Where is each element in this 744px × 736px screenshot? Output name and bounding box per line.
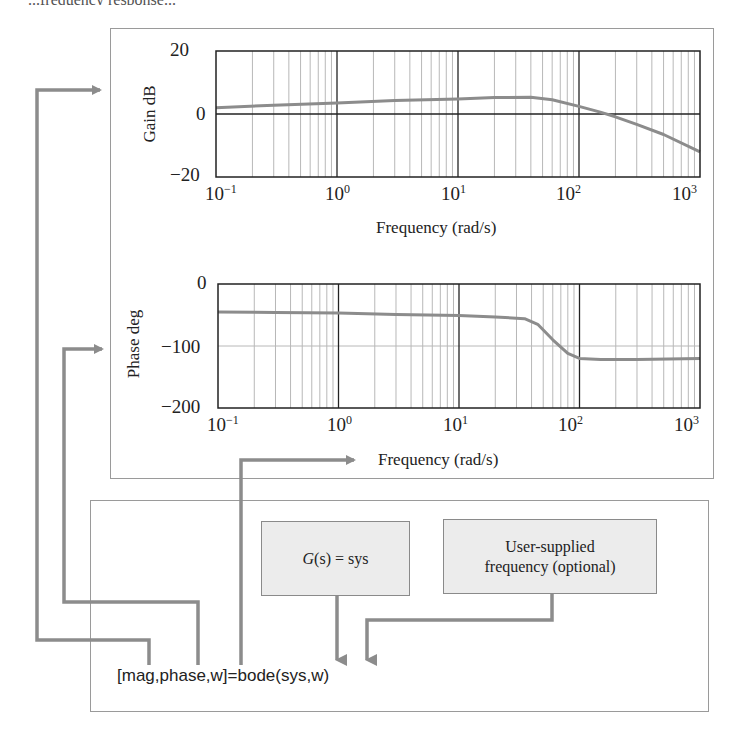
phase-ytick-0: 0: [197, 272, 207, 294]
phase-xtick-0: 10−1: [207, 414, 239, 436]
gain-xtick-3: 102: [556, 183, 581, 205]
phase-plot: [218, 284, 700, 408]
gain-xtick-4: 103: [672, 183, 697, 205]
gain-plot: [216, 51, 700, 177]
freq-arrow: [367, 594, 552, 660]
phase-xtick-2: 101: [443, 414, 468, 436]
system-label-g: G: [303, 550, 315, 567]
gain-xtick-2: 101: [441, 183, 466, 205]
phase-xtick-3: 102: [558, 414, 583, 436]
gain-ylabel: Gain dB: [140, 74, 160, 154]
phase-xlabel: Frequency (rad/s): [378, 450, 498, 470]
phase-xtick-1: 100: [327, 414, 352, 436]
gain-ytick-20: 20: [170, 39, 189, 61]
system-box: G(s) = sys: [261, 521, 410, 596]
phase-ytick-neg200: −200: [161, 396, 200, 418]
phase-ylabel: Phase deg: [124, 299, 144, 389]
frequency-box: User-supplied frequency (optional): [443, 519, 657, 594]
system-label-s: (s): [314, 550, 331, 567]
phase-xtick-4: 103: [674, 414, 699, 436]
gain-xtick-1: 100: [325, 183, 350, 205]
frequency-box-line2: frequency (optional): [484, 557, 615, 577]
gain-xlabel: Frequency (rad/s): [376, 218, 496, 238]
gain-xtick-0: 10−1: [205, 183, 237, 205]
phase-ytick-neg100: −100: [161, 336, 200, 358]
gain-ytick-neg20: −20: [170, 164, 200, 186]
bode-command: [mag,phase,w]=bode(sys,w): [117, 666, 329, 686]
frequency-box-line1: User-supplied: [484, 537, 615, 557]
diagram-graphics: [0, 0, 744, 736]
system-label-rest: = sys: [331, 550, 368, 567]
gain-ytick-0: 0: [196, 103, 206, 125]
